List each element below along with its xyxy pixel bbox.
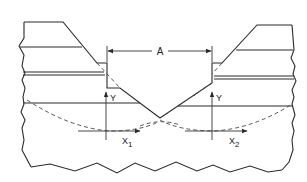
x-axis-left-label: X1 [122,136,133,149]
right-axes: Y X2 [185,92,247,149]
dashed-slope-extensions [97,63,222,96]
bottom-break-line [31,162,282,173]
y-axis-right-label: Y [216,93,222,103]
dimension-a-label: A [157,46,164,57]
cross-section-diagram: A Y X1 Y X2 [0,0,307,182]
left-axes: Y X1 [78,92,140,149]
left-body-outline [19,22,160,167]
dashed-curves [27,100,292,131]
right-body-outline [160,25,296,170]
dimension-a: A [107,46,212,62]
x-axis-right-label: X2 [229,136,240,149]
y-axis-left-label: Y [110,93,116,103]
